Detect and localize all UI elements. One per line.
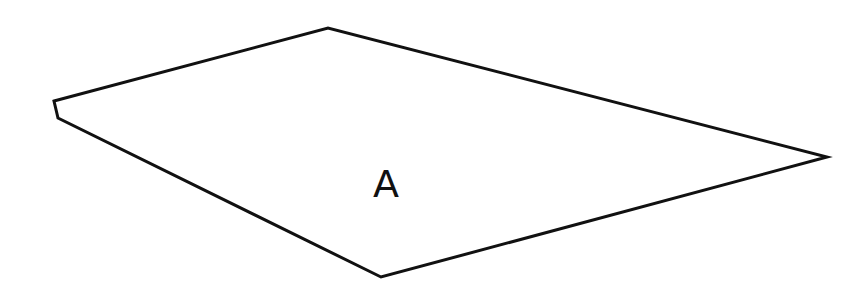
region-label-a: A [373,165,399,203]
plane-outline [54,28,827,277]
plane-diagram [0,0,867,308]
